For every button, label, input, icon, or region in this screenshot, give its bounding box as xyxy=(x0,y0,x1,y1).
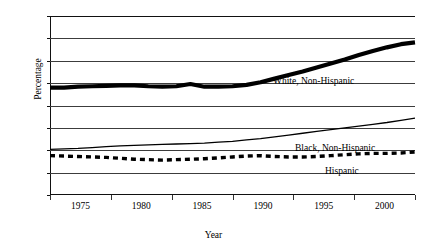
x-tick-label: 1985 xyxy=(193,201,212,211)
x-tick-label: 1990 xyxy=(253,201,272,211)
plot-area: 0510152025303540 19751980198519901995200… xyxy=(50,16,415,195)
x-tick-label: 1975 xyxy=(71,201,90,211)
x-tick-label: 1980 xyxy=(132,201,151,211)
x-tick-mark xyxy=(354,195,355,200)
series-lines xyxy=(50,16,415,195)
series-label-black: Black, Non-Hispanic xyxy=(295,143,375,153)
x-tick-mark xyxy=(233,195,234,200)
x-tick-mark xyxy=(111,195,112,200)
y-axis-title: Percentage xyxy=(33,39,43,119)
x-tick-mark xyxy=(293,195,294,200)
cropped-top-text xyxy=(3,0,95,5)
x-tick-label: 2000 xyxy=(375,201,394,211)
series-line-white xyxy=(50,42,415,87)
series-label-hispanic: Hispanic xyxy=(325,166,359,176)
x-tick-label: 1995 xyxy=(314,201,333,211)
series-line-hispanic xyxy=(50,152,415,160)
x-axis-ticks xyxy=(50,195,415,201)
x-axis-title: Year xyxy=(0,230,427,240)
chart-container: Percentage 0510152025303540 197519801985… xyxy=(0,0,427,250)
x-tick-mark xyxy=(172,195,173,200)
x-tick-mark xyxy=(415,195,416,200)
x-tick-mark xyxy=(50,195,51,200)
series-label-white: White, Non-Hispanic xyxy=(273,76,354,86)
